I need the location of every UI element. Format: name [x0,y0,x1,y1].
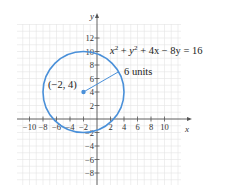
x-tick-label: 8 [149,122,153,132]
x-tick-label: −8 [38,122,47,132]
center-point [81,90,85,94]
x-tick-label: 4 [122,122,127,132]
y-tick-label: 6 [90,74,94,84]
y-tick-label: 12 [86,33,95,43]
y-tick-label: 2 [90,101,94,111]
x-tick-label: −6 [52,122,61,132]
x-tick-label: 6 [135,122,139,132]
center-label: (−2, 4) [48,79,77,91]
x-axis-label: x [184,124,189,134]
radius-line [84,72,119,92]
y-tick-label: −4 [85,141,95,151]
y-tick-label: 8 [90,60,94,70]
x-tick-label: −10 [23,122,36,132]
circle-graph: −10−8−6−4−224681012108642−2−4−6−8 (−2, 4… [0,0,225,195]
y-axis-arrow-icon [95,13,99,18]
eq-plus: + [118,45,129,56]
eq-rest: + 4x − 8y = 16 [138,45,203,56]
x-axis-arrow-icon [187,117,192,121]
equation-label: x2 + y2 + 4x − 8y = 16 [109,44,203,56]
x-tick-label: 10 [160,122,169,132]
y-axis-label: y [89,11,94,21]
y-tick-label: −6 [85,155,94,165]
radius-label: 6 units [124,66,152,77]
y-tick-label: −8 [85,168,94,178]
